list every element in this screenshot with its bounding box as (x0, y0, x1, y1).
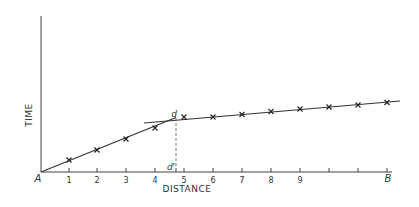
tick-label-1: 1 (66, 176, 71, 185)
point-a-label: A (34, 173, 42, 184)
y-axis-title: TIME (24, 103, 34, 128)
intersection-label: d (171, 109, 177, 119)
tick-label-4: 4 (152, 176, 157, 185)
tick-label-2: 2 (94, 176, 99, 185)
projection-label: d' (167, 162, 175, 172)
tick-label-8: 8 (268, 176, 273, 185)
tick-label-9: 9 (297, 176, 302, 185)
point-b-label: B (385, 173, 392, 184)
tick-label-3: 3 (123, 176, 128, 185)
data-markers (67, 100, 390, 163)
tick-label-7: 7 (239, 176, 244, 185)
chart: 1 2 3 4 5 6 7 8 9 A B DISTANCE TIME d d' (0, 0, 419, 207)
direct-line (41, 118, 176, 173)
x-axis-title: DISTANCE (163, 184, 212, 194)
x-ticks (69, 168, 387, 172)
